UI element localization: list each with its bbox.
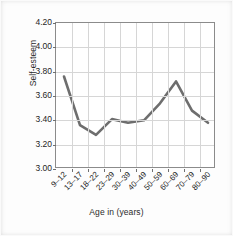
gridline-vertical: [184, 23, 185, 167]
y-axis-tick-label: 4.20: [0, 17, 52, 27]
gridline-vertical: [104, 23, 105, 167]
gridline-horizontal: [56, 96, 214, 97]
gridline-horizontal: [56, 72, 214, 73]
chart-figure: Self-esteem 3.003.203.403.603.804.004.20…: [0, 0, 233, 236]
x-axis-title: Age in (years): [0, 207, 233, 217]
y-axis-tick-label: 3.80: [0, 66, 52, 76]
gridline-vertical: [88, 23, 89, 167]
gridline-vertical: [120, 23, 121, 167]
y-axis-tick-mark: [53, 145, 56, 146]
x-axis-tick-labels: 9–1213–1718–2223–2930–3940–4950–5960–697…: [55, 170, 215, 206]
y-axis-tick-mark: [53, 72, 56, 73]
y-axis-tick-label: 4.00: [0, 41, 52, 51]
y-axis-tick-mark: [53, 23, 56, 24]
gridline-horizontal: [56, 47, 214, 48]
y-axis-tick-mark: [53, 47, 56, 48]
plot-area: [55, 22, 215, 168]
y-axis-tick-labels: 3.003.203.403.603.804.004.20: [0, 22, 52, 168]
gridline-horizontal: [56, 145, 214, 146]
gridline-vertical: [168, 23, 169, 167]
y-axis-tick-label: 3.40: [0, 114, 52, 124]
y-axis-tick-label: 3.00: [0, 163, 52, 173]
gridline-horizontal: [56, 120, 214, 121]
gridline-vertical: [152, 23, 153, 167]
y-axis-tick-mark: [53, 120, 56, 121]
gridline-vertical: [72, 23, 73, 167]
y-axis-tick-mark: [53, 96, 56, 97]
gridline-vertical: [200, 23, 201, 167]
y-axis-tick-label: 3.60: [0, 90, 52, 100]
y-axis-tick-label: 3.20: [0, 139, 52, 149]
gridline-vertical: [136, 23, 137, 167]
